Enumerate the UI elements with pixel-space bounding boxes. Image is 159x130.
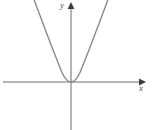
plot-canvas bbox=[0, 0, 159, 130]
y-axis-arrowhead bbox=[68, 2, 75, 9]
parabola-figure: y x bbox=[0, 0, 159, 130]
y-axis-label: y bbox=[60, 1, 64, 10]
x-axis-label: x bbox=[139, 84, 143, 93]
